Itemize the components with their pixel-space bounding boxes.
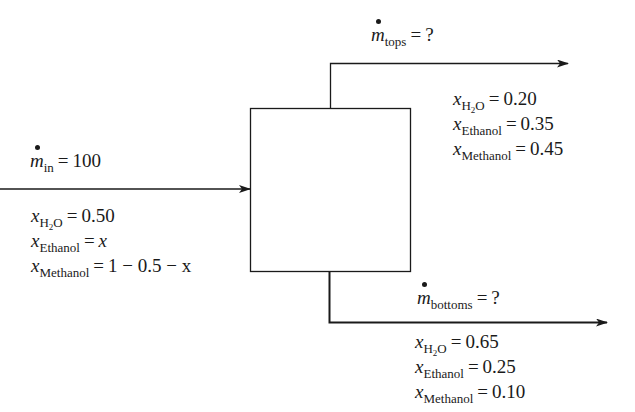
bottoms-flow-label: mbottoms=? xyxy=(417,287,500,311)
tops-flow-value: ? xyxy=(425,24,433,45)
bottoms-composition-methanol: xMethanol=0.10 xyxy=(415,381,525,405)
tops-composition-ethanol: xEthanol=0.35 xyxy=(453,113,554,137)
inlet-composition-ethanol: xEthanol=x xyxy=(31,230,107,254)
separator-unit-box xyxy=(251,109,411,272)
bottoms-composition-h2o: xH2O=0.65 xyxy=(415,331,499,356)
inlet-flow-value: 100 xyxy=(73,150,102,171)
tops-composition-methanol: xMethanol=0.45 xyxy=(453,138,563,162)
tops-flow-label: mtops=? xyxy=(371,24,434,48)
bottoms-flow-value: ? xyxy=(491,287,499,308)
inlet-flow-label: min=100 xyxy=(30,150,101,174)
inlet-composition-methanol: xMethanol=1 − 0.5 − x xyxy=(31,255,191,279)
inlet-composition-h2o: xH2O=0.50 xyxy=(31,205,115,230)
flow-rate-symbol: m xyxy=(30,150,44,172)
tops-composition-h2o: xH2O=0.20 xyxy=(453,88,537,113)
bottoms-composition-ethanol: xEthanol=0.25 xyxy=(415,356,516,380)
